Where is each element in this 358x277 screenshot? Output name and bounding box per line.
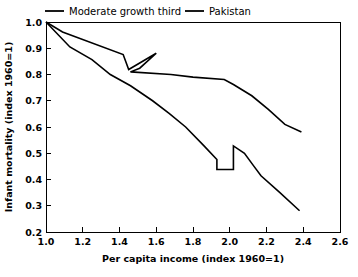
y-axis-tick-labels: 0.2 0.3 0.4 0.5 0.6 0.7 0.8 0.9 1.0: [25, 17, 42, 238]
x-tick-label: 1.0: [38, 236, 55, 247]
y-axis-ticks: [46, 22, 51, 232]
x-tick-label: 1.2: [74, 236, 91, 247]
x-axis-tick-labels: 1.0 1.2 1.4 1.6 1.8 2.0 2.2 2.4 2.6: [38, 236, 349, 247]
y-tick-label: 0.3: [25, 200, 42, 211]
y-axis-title: Infant mortality (index 1960=1): [3, 42, 14, 212]
chart-container: Moderate growth third Pakistan 0.2 0.3 0…: [0, 0, 358, 277]
x-tick-label: 2.6: [332, 236, 349, 247]
y-tick-label: 0.5: [25, 148, 42, 159]
x-tick-label: 2.4: [295, 236, 312, 247]
series-line-pakistan: [46, 22, 301, 132]
series-line-moderate-growth-third: [46, 22, 300, 211]
plot-frame: [46, 22, 340, 232]
legend-label-pakistan: Pakistan: [209, 6, 251, 17]
y-tick-label: 0.8: [25, 69, 42, 80]
x-tick-label: 1.6: [148, 236, 165, 247]
x-tick-label: 2.0: [221, 236, 238, 247]
x-axis-title: Per capita income (index 1960=1): [102, 253, 284, 264]
y-tick-label: 0.4: [25, 174, 42, 185]
y-tick-label: 0.7: [25, 95, 42, 106]
x-tick-label: 2.2: [258, 236, 275, 247]
chart-legend: Moderate growth third Pakistan: [45, 6, 251, 17]
x-tick-label: 1.4: [111, 236, 128, 247]
legend-label-moderate-growth-third: Moderate growth third: [69, 6, 181, 17]
y-tick-label: 0.9: [25, 43, 42, 54]
y-tick-label: 0.6: [25, 122, 42, 133]
x-axis-ticks: [46, 227, 340, 232]
x-tick-label: 1.8: [185, 236, 202, 247]
y-tick-label: 1.0: [25, 17, 42, 28]
line-chart-figure: Moderate growth third Pakistan 0.2 0.3 0…: [0, 0, 358, 277]
